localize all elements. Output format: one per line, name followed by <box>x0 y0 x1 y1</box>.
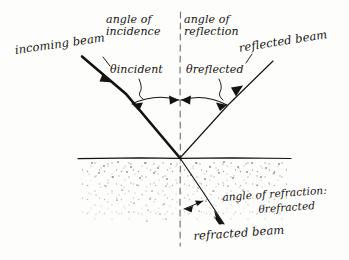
incidence-arc <box>132 96 179 112</box>
theta-incident-leader <box>139 79 143 99</box>
label-theta-reflected: θreflected <box>186 64 244 76</box>
label-angle-of-reflection-line2: reflection <box>184 26 239 38</box>
label-angle-of-incidence: angle of incidence <box>106 14 161 38</box>
theta-reflected-leader <box>219 79 223 100</box>
reflection-arc <box>181 96 227 112</box>
optics-diagram: angle of incidence angle of reflection i… <box>0 0 349 260</box>
incoming-beam-leader <box>103 57 110 66</box>
reflected-beam-leader <box>246 54 252 63</box>
interface-line <box>78 158 291 159</box>
label-angle-of-reflection: angle of reflection <box>184 14 239 38</box>
label-angle-of-incidence-line2: incidence <box>106 26 161 38</box>
normal-dashed-line <box>180 12 181 246</box>
label-theta-incident: θincident <box>110 64 163 76</box>
